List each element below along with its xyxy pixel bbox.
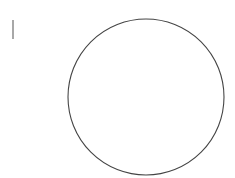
hand-drawn-circle [68,19,224,175]
drawing-canvas[interactable] [0,0,235,178]
